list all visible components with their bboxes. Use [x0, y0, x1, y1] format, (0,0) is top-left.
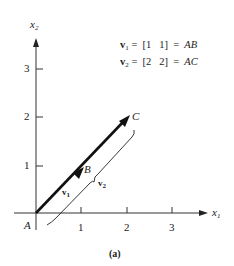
v2-brace [47, 130, 134, 225]
point-a-label: A [24, 220, 31, 231]
point-b-label: B [84, 164, 91, 175]
equation-v2: v2 = [2 2] = AC [120, 57, 198, 69]
v2-label: v2 [98, 179, 106, 190]
y-tick-3: 3 [24, 63, 30, 74]
x-tick-3: 3 [169, 222, 175, 233]
x-tick-1: 1 [78, 222, 84, 233]
y-axis-arrowhead-icon [33, 38, 39, 47]
y-tick-2: 2 [24, 111, 30, 122]
v1-label: v1 [62, 188, 70, 199]
figure-caption: (a) [109, 249, 121, 259]
equation-v1: v1 = [1 1] = AB [120, 40, 197, 52]
x-axis-arrowhead-icon [199, 210, 208, 216]
x-axis-label: x1 [212, 207, 220, 220]
vector-diagram [0, 0, 234, 266]
y-tick-1: 1 [24, 160, 30, 171]
x-tick-2: 2 [124, 222, 130, 233]
vector-v2-line [36, 121, 124, 213]
y-axis-label: x2 [30, 19, 38, 32]
point-c-label: C [132, 111, 139, 122]
